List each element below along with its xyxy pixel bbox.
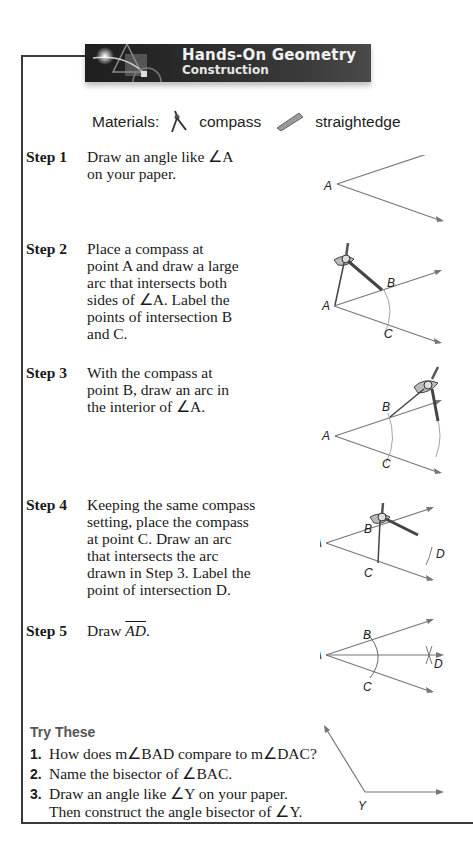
svg-text:C: C [363, 680, 372, 694]
figure-step-1: A [320, 155, 473, 225]
straightedge-icon [275, 112, 305, 132]
materials-label: Materials: [92, 113, 159, 131]
step-label: Step 2 [26, 240, 67, 257]
figure-angle-y: Y [320, 720, 473, 820]
step-text: Keeping the same compass setting, place … [87, 496, 262, 598]
svg-text:A: A [321, 429, 330, 443]
step-text: Place a compass at point A and draw a la… [87, 240, 262, 342]
svg-text:B: B [387, 276, 395, 290]
svg-text:B: B [363, 628, 371, 642]
banner-subtitle: Construction [182, 63, 269, 77]
geometry-decoration-icon [85, 44, 185, 82]
figure-step-2: A B C [320, 235, 473, 345]
exercise-1: 1.How does m∠BAD compare to m∠DAC? [30, 745, 317, 763]
svg-text:D: D [436, 547, 445, 561]
svg-text:A: A [320, 536, 322, 550]
exercise-2: 2.Name the bisector of ∠BAC. [30, 765, 232, 783]
step-label: Step 1 [26, 148, 67, 165]
try-these-title: Try These [30, 724, 95, 740]
material-compass: compass [199, 113, 261, 131]
exercise-3: 3.Draw an angle like ∠Y on your paper. T… [30, 785, 302, 820]
svg-text:A: A [320, 648, 322, 662]
step-label: Step 5 [26, 622, 67, 639]
svg-text:A: A [321, 299, 330, 313]
figure-step-3: A B C [320, 365, 473, 475]
svg-text:Y: Y [358, 799, 367, 813]
svg-text:D: D [434, 657, 443, 671]
svg-text:C: C [364, 566, 373, 580]
step-text: With the compass at point B, draw an arc… [87, 364, 262, 415]
step-label: Step 4 [26, 496, 67, 513]
section-banner: Hands-On Geometry Construction [85, 44, 371, 82]
svg-text:A: A [323, 179, 332, 193]
material-straightedge: straightedge [315, 113, 400, 131]
ray-ad: AD [125, 622, 146, 639]
compass-drawing-icon [390, 367, 438, 421]
banner-title: Hands-On Geometry [182, 46, 356, 64]
figure-step-4: A B C D [320, 495, 473, 595]
compass-drawing-icon [334, 243, 382, 305]
svg-text:B: B [382, 400, 390, 414]
materials-row: Materials: compass straightedge [92, 110, 415, 134]
frame-border-top [21, 55, 87, 57]
figure-step-5: A B C D [320, 610, 473, 705]
frame-border-bottom [21, 822, 473, 824]
frame-border-left [21, 55, 23, 824]
step-text: Draw an angle like ∠A on your paper. [87, 148, 262, 182]
step-label: Step 3 [26, 364, 67, 381]
svg-text:B: B [364, 522, 372, 536]
compass-icon [169, 110, 189, 134]
svg-text:C: C [382, 457, 391, 471]
svg-text:C: C [384, 327, 393, 341]
compass-drawing-icon [370, 503, 418, 563]
step-text: Draw AD. [87, 622, 262, 639]
